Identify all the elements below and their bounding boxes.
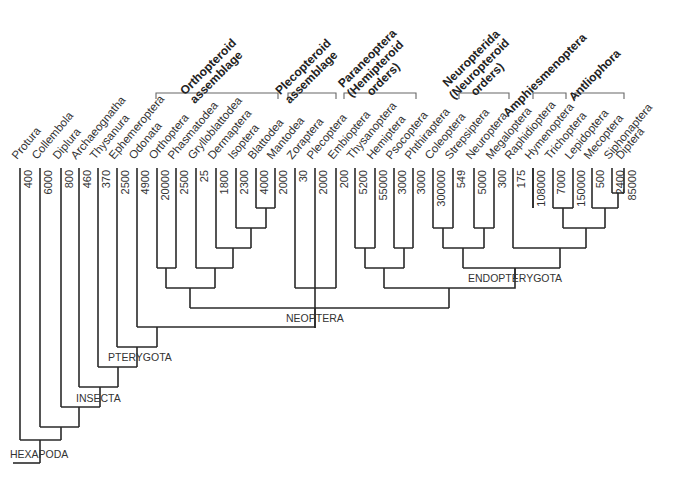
species-count: 3000 [415,170,427,194]
species-counts: 4006000800460370250049002000025002518002… [22,170,638,207]
species-count: 1800 [218,170,230,194]
species-count: 25 [198,170,210,182]
species-count: 300000 [435,170,447,207]
group-brackets [156,93,624,99]
species-count: 4900 [139,170,151,194]
species-count: 800 [63,170,75,188]
clade-label-hexapoda: HEXAPODA [10,448,68,460]
phylogenetic-tree: OrthopteroidassemblagePlecopteroidassemb… [0,0,678,479]
species-count: 400 [22,170,34,188]
group-labels: OrthopteroidassemblagePlecopteroidassemb… [177,26,623,120]
species-count: 5200 [357,170,369,194]
species-count: 370 [100,170,112,188]
species-count: 300 [496,170,508,188]
clade-label-neoptera: NEOPTERA [286,312,344,324]
species-count: 500 [594,170,606,188]
species-count: 175 [515,170,527,188]
species-count: 200 [338,170,350,188]
species-count: 6000 [42,170,54,194]
species-count: 20000 [159,170,171,201]
species-count: 460 [81,170,93,188]
species-count: 4000 [258,170,270,194]
species-count: 2000 [317,170,329,194]
species-count: 549 [455,170,467,188]
species-count: 7000 [555,170,567,194]
species-count: 55000 [377,170,389,201]
species-count: 85000 [626,170,638,201]
group-bracket [459,93,509,99]
species-count: 108000 [535,170,547,207]
clade-label-pterygota: PTERYGOTA [108,351,172,363]
species-count: 2000 [277,170,289,194]
species-count: 30 [297,170,309,182]
species-count: 2500 [178,170,190,194]
clade-label-endopterygota: ENDOPTERYGOTA [468,272,562,284]
species-count: 150000 [575,170,587,207]
species-count: 5000 [476,170,488,194]
taxon-labels: ProturaCollembolaDipluraArchaeognathaThy… [9,92,655,161]
group-bracket [533,93,566,99]
species-count: 2300 [238,170,250,194]
group-bracket [156,93,278,99]
species-count: 3000 [396,170,408,194]
clade-labels: HEXAPODA INSECTA PTERYGOTA NEOPTERA ENDO… [10,272,562,460]
species-count: 2500 [119,170,131,194]
clade-label-insecta: INSECTA [76,392,121,404]
